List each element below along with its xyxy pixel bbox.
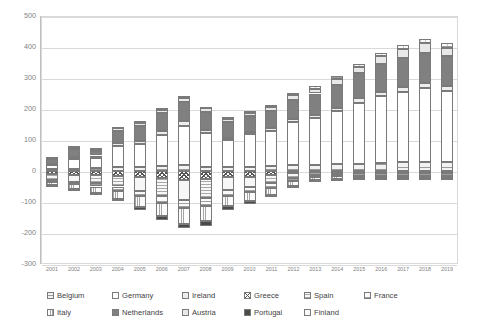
legend-item-germany[interactable]: Germany: [112, 291, 182, 300]
bar-segment-germany-2008[interactable]: [200, 133, 212, 166]
bar-segment-ireland-2002[interactable]: [68, 157, 80, 159]
legend-item-finland[interactable]: Finland: [304, 308, 364, 317]
bar-segment-austria-2014[interactable]: [331, 79, 343, 85]
bar-segment-austria-2011[interactable]: [265, 107, 277, 111]
bar-segment-portugal-2006[interactable]: [156, 216, 168, 220]
bar-segment-italy-2008[interactable]: [200, 206, 212, 221]
bar-segment-germany-2017[interactable]: [397, 92, 409, 163]
bar-segment-italy-2009[interactable]: [222, 196, 234, 207]
bar-segment-portugal-2016[interactable]: [375, 178, 387, 180]
bar-segment-finland-2001[interactable]: [46, 157, 58, 159]
bar-segment-austria-2019[interactable]: [441, 48, 453, 57]
bar-group-2012[interactable]: [282, 16, 304, 264]
bar-segment-portugal-2011[interactable]: [265, 195, 277, 197]
bar-segment-portugal-2012[interactable]: [287, 186, 299, 188]
bar-segment-finland-2014[interactable]: [331, 76, 343, 79]
bar-segment-finland-2013[interactable]: [309, 86, 321, 88]
bar-segment-france-2006[interactable]: [156, 196, 168, 203]
bar-group-2017[interactable]: [392, 16, 414, 264]
legend-item-belgium[interactable]: Belgium: [47, 291, 112, 300]
bar-segment-spain-2008[interactable]: [200, 179, 212, 198]
bar-segment-spain-2004[interactable]: [112, 176, 124, 187]
bar-segment-portugal-2001[interactable]: [46, 185, 58, 187]
bar-segment-italy-2010[interactable]: [244, 192, 256, 201]
bar-segment-germany-2009[interactable]: [222, 140, 234, 167]
bar-segment-ireland-2014[interactable]: [331, 108, 343, 112]
bar-segment-germany-2014[interactable]: [331, 111, 343, 164]
bar-segment-netherlands-2017[interactable]: [397, 58, 409, 87]
bar-segment-netherlands-2005[interactable]: [134, 126, 146, 141]
bar-segment-italy-2007[interactable]: [178, 208, 190, 224]
bar-segment-austria-2008[interactable]: [200, 108, 212, 112]
bar-segment-ireland-2015[interactable]: [353, 98, 365, 102]
legend-item-portugal[interactable]: Portugal: [244, 308, 304, 317]
bar-segment-netherlands-2002[interactable]: [68, 149, 80, 158]
bar-segment-finland-2010[interactable]: [244, 111, 256, 113]
bar-segment-greece-2006[interactable]: [156, 171, 168, 178]
bar-segment-ireland-2010[interactable]: [244, 132, 256, 134]
bar-segment-italy-2011[interactable]: [265, 188, 277, 195]
bar-segment-netherlands-2015[interactable]: [353, 73, 365, 98]
legend-item-austria[interactable]: Austria: [182, 308, 244, 317]
bar-segment-germany-2003[interactable]: [90, 158, 102, 168]
bar-segment-belgium-2016[interactable]: [375, 163, 387, 171]
bar-segment-greece-2007[interactable]: [178, 171, 190, 180]
legend-item-netherlands[interactable]: Netherlands: [112, 308, 182, 317]
bar-segment-austria-2018[interactable]: [419, 43, 431, 52]
bar-segment-spain-2006[interactable]: [156, 178, 168, 195]
bar-segment-finland-2004[interactable]: [112, 127, 124, 129]
bar-group-2007[interactable]: [173, 16, 195, 264]
bar-segment-ireland-2013[interactable]: [309, 115, 321, 119]
bar-group-2014[interactable]: [326, 16, 348, 264]
bar-segment-germany-2015[interactable]: [353, 103, 365, 164]
bar-segment-italy-2004[interactable]: [112, 191, 124, 199]
bar-segment-portugal-2007[interactable]: [178, 224, 190, 229]
bar-segment-austria-2012[interactable]: [287, 95, 299, 99]
bar-segment-netherlands-2009[interactable]: [222, 122, 234, 138]
bar-segment-ireland-2004[interactable]: [112, 143, 124, 146]
bar-segment-ireland-2016[interactable]: [375, 92, 387, 96]
bar-segment-germany-2004[interactable]: [112, 146, 124, 167]
bar-segment-portugal-2015[interactable]: [353, 178, 365, 180]
bar-segment-spain-2010[interactable]: [244, 177, 256, 188]
bar-segment-austria-2010[interactable]: [244, 113, 256, 116]
bar-segment-spain-2003[interactable]: [90, 175, 102, 183]
bar-group-2004[interactable]: [107, 16, 129, 264]
bar-segment-portugal-2009[interactable]: [222, 206, 234, 209]
bar-segment-germany-2011[interactable]: [265, 131, 277, 166]
bar-segment-ireland-2003[interactable]: [90, 156, 102, 158]
bar-segment-finland-2009[interactable]: [222, 117, 234, 119]
bar-segment-germany-2010[interactable]: [244, 134, 256, 166]
bar-segment-germany-2005[interactable]: [134, 144, 146, 166]
bar-segment-france-2008[interactable]: [200, 198, 212, 205]
bar-segment-portugal-2019[interactable]: [441, 178, 453, 180]
bar-segment-finland-2012[interactable]: [287, 93, 299, 95]
bar-group-2018[interactable]: [414, 16, 436, 264]
bar-segment-portugal-2008[interactable]: [200, 221, 212, 226]
bar-segment-germany-2016[interactable]: [375, 96, 387, 163]
bar-segment-austria-2017[interactable]: [397, 49, 409, 58]
bar-segment-greece-2008[interactable]: [200, 171, 212, 179]
bar-segment-netherlands-2003[interactable]: [90, 151, 102, 156]
bar-segment-finland-2018[interactable]: [419, 39, 431, 44]
bar-segment-portugal-2014[interactable]: [331, 179, 343, 181]
bar-segment-austria-2009[interactable]: [222, 119, 234, 122]
bar-segment-netherlands-2008[interactable]: [200, 112, 212, 130]
bar-group-2011[interactable]: [260, 16, 282, 264]
bar-segment-belgium-2018[interactable]: [419, 162, 431, 171]
bar-segment-portugal-2004[interactable]: [112, 199, 124, 201]
bar-group-2001[interactable]: [41, 16, 63, 264]
bar-segment-belgium-2015[interactable]: [353, 164, 365, 171]
bar-segment-finland-2007[interactable]: [178, 96, 190, 98]
bar-segment-portugal-2005[interactable]: [134, 207, 146, 210]
bar-segment-netherlands-2007[interactable]: [178, 102, 190, 121]
bar-segment-netherlands-2016[interactable]: [375, 64, 387, 92]
bar-segment-italy-2005[interactable]: [134, 196, 146, 207]
bar-segment-germany-2018[interactable]: [419, 88, 431, 162]
bar-segment-austria-2007[interactable]: [178, 98, 190, 102]
bar-segment-finland-2005[interactable]: [134, 121, 146, 123]
bar-segment-finland-2003[interactable]: [90, 148, 102, 150]
bar-segment-germany-2007[interactable]: [178, 126, 190, 166]
bar-segment-germany-2002[interactable]: [68, 159, 80, 168]
bar-segment-spain-2005[interactable]: [134, 177, 146, 191]
